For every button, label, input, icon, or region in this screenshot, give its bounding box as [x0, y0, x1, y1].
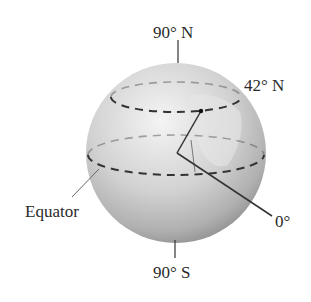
south-pole-label: 90° S [153, 263, 191, 282]
globe-diagram: 90° N 42° N Equator 0° 90° S [0, 0, 311, 302]
latitude-label: 42° N [244, 76, 284, 95]
equator-label: Equator [25, 202, 79, 221]
location-point [199, 109, 203, 113]
prime-meridian-label: 0° [275, 212, 290, 231]
globe-sphere [86, 63, 266, 243]
north-pole-label: 90° N [153, 23, 193, 42]
